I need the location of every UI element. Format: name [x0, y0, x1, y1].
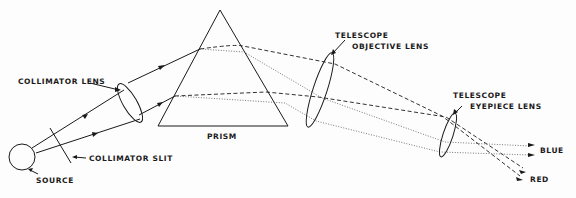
- spectroscope-diagram: COLLIMATOR LENS COLLIMATOR SLIT SOURCE P…: [0, 0, 576, 198]
- label-blue: BLUE: [540, 146, 564, 155]
- label-objective-line2: OBJECTIVE LENS: [352, 42, 429, 51]
- label-eyepiece-line2: EYEPIECE LENS: [470, 102, 542, 111]
- diagram-svg: COLLIMATOR LENS COLLIMATOR SLIT SOURCE P…: [0, 0, 576, 198]
- label-source: SOURCE: [36, 176, 74, 185]
- label-collimator-slit: COLLIMATOR SLIT: [89, 154, 173, 163]
- blue-arrow-1: [528, 143, 535, 147]
- label-eyepiece-line1: TELESCOPE: [453, 91, 506, 100]
- incident-rays: [32, 90, 140, 153]
- label-objective-line1: TELESCOPE: [335, 31, 388, 40]
- source-circle: [9, 144, 35, 170]
- prism: [158, 10, 288, 126]
- label-red: RED: [530, 175, 549, 184]
- blue-arrow-2: [528, 153, 535, 157]
- red-arrow-1: [519, 170, 526, 174]
- label-collimator-lens: COLLIMATOR LENS: [18, 77, 105, 86]
- red-arrow-2: [516, 177, 523, 181]
- collimator-lens: [113, 80, 147, 125]
- objective-lens: [301, 51, 338, 130]
- label-prism: PRISM: [207, 132, 237, 141]
